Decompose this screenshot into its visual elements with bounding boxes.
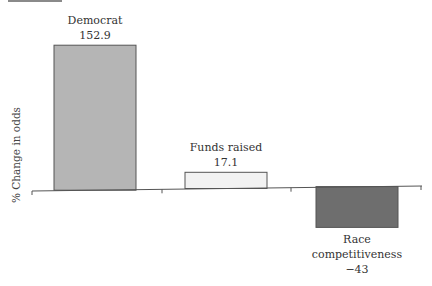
bar-category-label: Race: [343, 233, 371, 246]
bar-value-label: −43: [345, 263, 368, 276]
bar-democrat: [54, 45, 136, 190]
bar-category-label: competitiveness: [312, 248, 403, 261]
bar-value-label: 17.1: [214, 156, 239, 169]
bar-category-label: Democrat: [68, 14, 123, 27]
bar-chart: % Change in odds Democrat152.9Funds rais…: [0, 0, 432, 286]
bar-funds-raised: [185, 172, 267, 188]
bar-category-label: Funds raised: [190, 141, 263, 154]
bar-race-competitiveness: [316, 187, 398, 228]
bars-group: [54, 45, 398, 227]
y-axis-label: % Change in odds: [10, 107, 22, 203]
bar-value-label: 152.9: [79, 29, 111, 42]
